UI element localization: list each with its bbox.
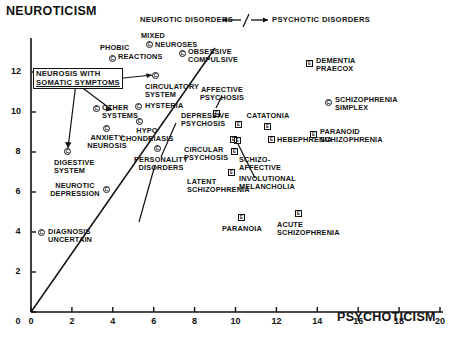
x-tick-16: 16 (350, 316, 366, 326)
point-label-catatonia: CATATONIA (241, 112, 295, 120)
y-tick-10: 10 (8, 106, 24, 116)
point-label-circular-psychosis: CIRCULAR PSYCHOSIS (184, 146, 228, 162)
psychotic-disorders-header: PSYCHOTIC DISORDERS (272, 15, 370, 24)
y-tick-6: 6 (12, 186, 24, 196)
scatter-chart: NEUROTICISM PSYCHOTICISM NEUROTIC DISORD… (0, 0, 456, 354)
point-label-dementia-praecox: DEMENTIA PRAECOX (316, 57, 356, 73)
point-label-digestive-system: DIGESTIVE SYSTEM (54, 159, 95, 175)
y-tick-12: 12 (8, 66, 24, 76)
point-label-hysteria: HYSTERIA (145, 102, 183, 110)
marker-personality-disorders[interactable]: C (154, 145, 161, 152)
marker-latent-schizophrenia[interactable]: E (228, 169, 235, 176)
x-tick-12: 12 (268, 316, 284, 326)
point-label-mixed: MIXED (141, 32, 165, 40)
point-label-affective-psychosis: AFFECTIVE PSYCHOSIS (194, 86, 250, 102)
marker-hebephrenia[interactable]: E (268, 136, 275, 143)
point-label-schizo-affective: SCHIZO- AFFECTIVE (239, 156, 281, 172)
neurotic-disorders-header: NEUROTIC DISORDERS (140, 15, 233, 24)
point-label-acute-schizophrenia: ACUTE SCHIZOPHRENIA (277, 221, 340, 237)
marker-schizophrenia-simplex[interactable]: C (325, 99, 332, 106)
x-tick-18: 18 (391, 316, 407, 326)
x-tick-14: 14 (309, 316, 325, 326)
x-tick-8: 8 (189, 316, 201, 326)
point-label-compulsive: COMPULSIVE (188, 56, 238, 64)
point-label-reactions: REACTIONS (118, 53, 163, 61)
x-tick-10: 10 (228, 316, 244, 326)
marker-mixed-neuroses[interactable]: C (146, 41, 153, 48)
point-label-personality-disorders: PERSONALITY DISORDERS (130, 156, 192, 172)
y-tick-8: 8 (12, 146, 24, 156)
x-tick-6: 6 (148, 316, 160, 326)
somatic-line-1: NEUROSIS WITH (36, 69, 100, 78)
point-label-neurosis-somatic-symptoms: NEUROSIS WITHSOMATIC SYMPTOMS (33, 68, 123, 89)
marker-dementia-praecox[interactable]: E (306, 60, 313, 67)
marker-acute-schizophrenia[interactable]: E (295, 210, 302, 217)
marker-circulatory-system[interactable]: C (152, 72, 159, 79)
marker-other-systems[interactable]: C (93, 105, 100, 112)
marker-catatonia[interactable]: E (264, 123, 271, 130)
point-label-phobic: PHOBIC (100, 44, 129, 52)
y-tick-0: 0 (12, 316, 24, 326)
x-tick-0: 0 (25, 316, 37, 326)
y-tick-2: 2 (12, 266, 24, 276)
marker-involutional-melancholia[interactable]: E (234, 137, 241, 144)
point-label-paranoia: PARANOIA (216, 225, 268, 233)
somatic-line-2: SOMATIC SYMPTOMS (36, 78, 120, 87)
point-label-schizophrenia-simplex: SCHIZOPHRENIA SIMPLEX (335, 96, 398, 112)
point-label-circulatory-system: CIRCULATORY SYSTEM (145, 83, 199, 99)
point-label-latent-schizophrenia: LATENT SCHIZOPHRENIA (187, 178, 250, 194)
point-label-depressive-psychosis: DEPRESSIVE PSYCHOSIS (181, 112, 229, 128)
point-label-hypochondriasis: HYPO CHONDRIASIS (116, 127, 178, 143)
marker-depressive-psychosis[interactable]: E (235, 121, 242, 128)
marker-schizo-affective[interactable]: E (231, 148, 238, 155)
marker-hypochondriasis[interactable]: C (136, 118, 143, 125)
point-label-neurotic-depression: NEUROTIC DEPRESSION (48, 182, 102, 198)
marker-paranoia[interactable]: E (238, 214, 245, 221)
marker-digestive-system[interactable]: C (64, 148, 71, 155)
marker-anxiety-neurosis[interactable]: C (103, 125, 110, 132)
x-tick-4: 4 (107, 316, 119, 326)
y-tick-4: 4 (12, 226, 24, 236)
y-axis-title: NEUROTICISM (6, 4, 97, 18)
marker-diagnosis-uncertain[interactable]: C (38, 229, 45, 236)
marker-obsessive-compulsive[interactable]: C (179, 50, 186, 57)
point-label-diagnosis-uncertain: DIAGNOSIS UNCERTAIN (48, 228, 92, 244)
marker-phobic-reactions[interactable]: C (109, 55, 116, 62)
point-label-hebephrenia: HEBEPHRENIA (277, 136, 332, 144)
marker-neurotic-depression[interactable]: C (103, 186, 110, 193)
x-tick-2: 2 (66, 316, 78, 326)
x-tick-20: 20 (432, 316, 448, 326)
point-label-other-systems: OTHER SYSTEMS (102, 104, 138, 120)
